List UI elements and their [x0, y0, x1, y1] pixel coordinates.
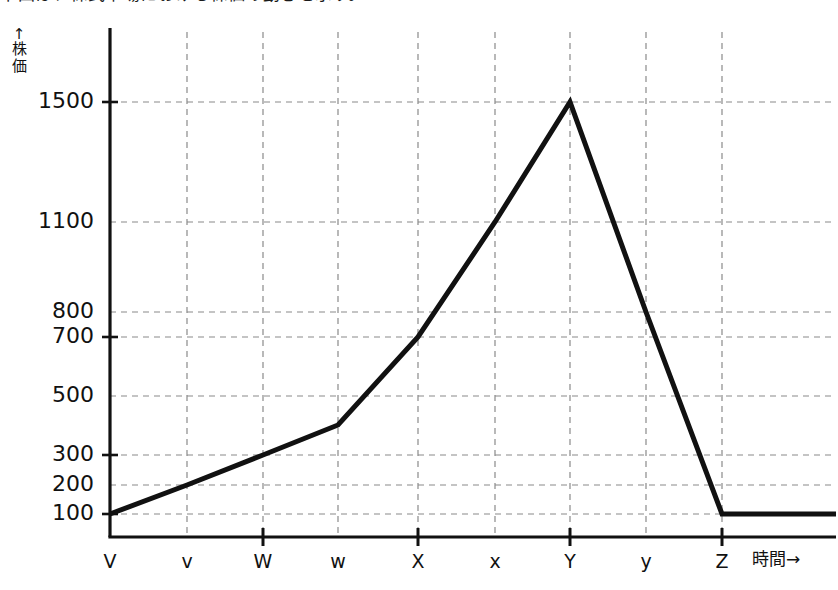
x-tick-label-V: V: [86, 551, 134, 571]
y-tick-label-1100: 1100: [0, 210, 94, 232]
y-tick-label-300: 300: [0, 443, 94, 465]
y-tick-label-200: 200: [0, 473, 94, 495]
y-tick-label-1500: 1500: [0, 90, 94, 112]
x-tick-label-x: x: [471, 551, 519, 571]
horizontal-gridlines: [110, 102, 836, 514]
y-tick-label-500: 500: [0, 384, 94, 406]
y-tick-label-800: 800: [0, 300, 94, 322]
axis-lines: [108, 28, 836, 537]
y-tick-label-100: 100: [0, 502, 94, 524]
x-tick-label-Z: Z: [698, 551, 746, 571]
x-tick-label-Y: Y: [546, 551, 594, 571]
stock-price-line: [110, 102, 836, 514]
y-tick-label-700: 700: [0, 325, 94, 347]
x-tick-label-y: y: [622, 551, 670, 571]
x-tick-label-X: X: [394, 551, 442, 571]
stock-price-chart: 下図は、株式市場における株価の動きを示す。 ↑ 株 価 時間→ 15001100…: [0, 0, 838, 590]
x-tick-label-w: w: [314, 551, 362, 571]
plot-area: [0, 0, 838, 590]
x-tick-label-v: v: [163, 551, 211, 571]
x-tick-label-W: W: [239, 551, 287, 571]
